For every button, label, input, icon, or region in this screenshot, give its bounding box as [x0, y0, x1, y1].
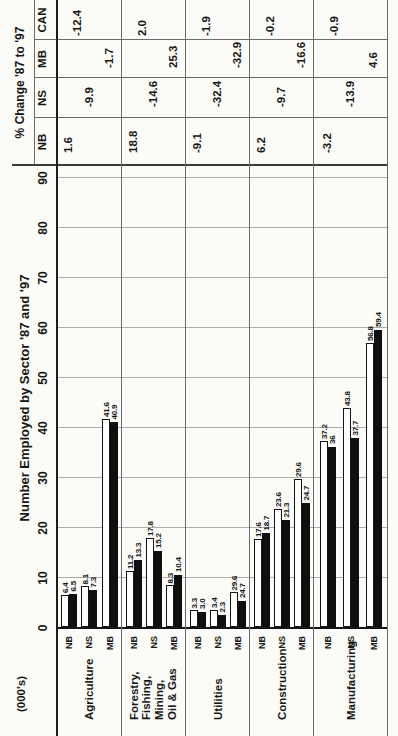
bar-87: 43.8 [343, 408, 351, 627]
province-label: NS [84, 636, 94, 674]
chart-canvas: (000's) Number Employed by Sector '87 an… [0, 0, 398, 736]
bar-pair: 37.236 [320, 441, 336, 627]
bar-value-label: 59.4 [374, 312, 383, 327]
bar-pair: 6.46.5 [61, 595, 77, 628]
bar-pair: 8.17.3 [81, 587, 97, 628]
axis-tick-label: 50 [36, 361, 50, 395]
province-label: NB [64, 636, 74, 674]
bar-97: 24.7 [302, 504, 310, 628]
bar-87: 56.8 [366, 343, 374, 627]
bar-97: 21.3 [282, 521, 290, 628]
bar-value-label: 24.7 [238, 583, 247, 598]
bar-97: 6.5 [69, 595, 77, 628]
bar-value-label: 15.2 [154, 533, 163, 548]
bar-97: 3.0 [198, 612, 206, 627]
bar-87: 29.6 [294, 479, 302, 627]
axis-tick-label: 20 [36, 511, 50, 545]
bar-value-label: 43.8 [342, 391, 351, 406]
sector-row: ManufacturingNB37.236-3.2NS43.837.7-13.9… [314, 0, 388, 736]
bar-value-label: 40.9 [109, 405, 118, 420]
bar-pair: 11.213.3 [126, 561, 142, 628]
bar-group-mb: MB56.859.4 [363, 0, 386, 736]
bar-97: 7.3 [89, 591, 97, 628]
pct-value-ns: -9.9 [83, 87, 95, 107]
bar-group-nb: NB37.236 [316, 0, 339, 736]
bar-value-label: 7.3 [89, 577, 98, 588]
bar-87: 8.3 [166, 586, 174, 628]
province-label: MB [297, 636, 307, 674]
pct-value-can: -12.4 [71, 10, 83, 36]
sector-row: AgricultureNB6.46.51.6NS8.17.3-9.9MB41.6… [57, 0, 122, 736]
bar-group-nb: NB17.618.7 [252, 0, 272, 736]
bar-value-label: 21.3 [282, 503, 291, 518]
province-label: MB [169, 636, 179, 674]
pct-value-can: -0.2 [264, 16, 276, 36]
bar-87: 8.1 [81, 587, 89, 628]
bar-value-label: 10.4 [174, 557, 183, 572]
bar-group-ns: NS17.815.2 [144, 0, 164, 736]
pct-value-nb: 6.2 [255, 137, 267, 153]
pct-value-nb: -3.2 [321, 133, 333, 153]
province-label: NS [213, 636, 223, 674]
bar-group-mb: MB29.624.7 [292, 0, 312, 736]
pct-value-nb: 1.6 [62, 137, 74, 153]
axis-tick-label: 30 [36, 461, 50, 495]
pct-value-mb: -32.9 [231, 42, 243, 68]
province-label: NB [323, 636, 333, 674]
axis-tick-label: 70 [36, 261, 50, 295]
bar-value-label: 37.7 [350, 421, 359, 436]
bar-pair: 56.859.4 [366, 330, 382, 627]
axis-tick-label: 60 [36, 311, 50, 345]
pct-value-ns: -9.7 [275, 87, 287, 107]
bar-pair: 3.42.3 [210, 610, 226, 627]
bar-value-label: 24.7 [302, 486, 311, 501]
province-label: MB [233, 636, 243, 674]
table-column-header: NS [36, 78, 48, 118]
pct-value-mb: 4.6 [367, 52, 379, 68]
pct-value-can: 2.0 [136, 20, 148, 36]
bar-87: 17.6 [254, 539, 262, 627]
province-label: NB [129, 636, 139, 674]
bar-87: 11.2 [126, 571, 134, 627]
bar-group-ns: NS43.837.7 [339, 0, 362, 736]
province-label: NB [257, 636, 267, 674]
bar-97: 18.7 [262, 534, 270, 628]
bar-pair: 8.310.4 [166, 575, 182, 627]
bar-value-label: 2.3 [218, 602, 227, 613]
pct-value-ns: -32.4 [211, 81, 223, 107]
bar-group-nb: NB6.46.5 [59, 0, 79, 736]
bar-pair: 17.618.7 [254, 534, 270, 628]
bar-87: 23.6 [274, 509, 282, 627]
units-label: (000's) [15, 676, 27, 712]
bar-value-label: 29.6 [294, 462, 303, 477]
province-label: MB [105, 636, 115, 674]
sector-row: ConstructionNB17.618.76.2NS23.621.3-9.7M… [250, 0, 314, 736]
bar-87: 3.4 [210, 610, 218, 627]
table-column-header: CAN [36, 0, 48, 40]
bar-pair: 3.33.0 [190, 611, 206, 628]
bar-pair: 41.640.9 [102, 419, 118, 627]
chart-title: Number Employed by Sector '87 and '97 [17, 238, 32, 558]
bar-pair: 43.837.7 [343, 408, 359, 627]
bar-pair: 23.621.3 [274, 509, 290, 627]
bar-group-mb: MB41.640.9 [100, 0, 120, 736]
bar-value-label: 18.7 [262, 516, 271, 531]
bar-pair: 29.624.7 [294, 479, 310, 627]
province-label: NS [346, 636, 356, 674]
pct-value-mb: 25.3 [167, 46, 179, 68]
table-top-rule [34, 0, 35, 165]
axis-tick-label: 80 [36, 211, 50, 245]
province-label: NB [193, 636, 203, 674]
province-label: NS [277, 636, 287, 674]
bar-group-mb: MB29.624.7 [228, 0, 248, 736]
table-column-header: NB [36, 122, 48, 162]
bar-97: 40.9 [110, 423, 118, 628]
pct-value-mb: -16.6 [295, 42, 307, 68]
bar-group-ns: NS3.42.3 [208, 0, 228, 736]
bar-value-label: 6.5 [69, 581, 78, 592]
province-label: MB [369, 636, 379, 674]
bar-97: 10.4 [174, 575, 182, 627]
sector-row: UtilitiesNB3.33.0-9.1NS3.42.3-32.4MB29.6… [186, 0, 250, 736]
bar-97: 15.2 [154, 551, 162, 627]
pct-value-mb: -1.7 [103, 48, 115, 68]
